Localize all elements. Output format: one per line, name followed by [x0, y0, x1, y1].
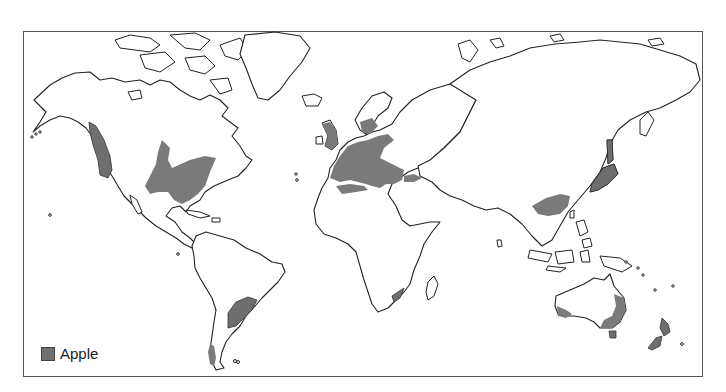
- world-map: [0, 0, 726, 392]
- north-america: [31, 32, 310, 248]
- legend-swatch-apple: [41, 347, 55, 361]
- south-america: [177, 232, 285, 370]
- asia: [418, 34, 700, 291]
- legend-label-apple: Apple: [60, 345, 98, 362]
- oceania: [555, 274, 683, 350]
- map-legend: Apple: [41, 345, 98, 362]
